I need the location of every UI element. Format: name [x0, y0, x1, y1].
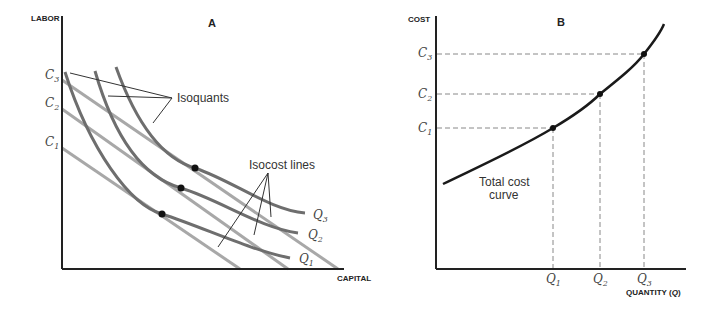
tangency-point-3 [192, 165, 199, 172]
c3-label: C3 [45, 68, 59, 84]
panel-b: COST B Total cost curve C3 C2 C1 Q1 Q2 Q… [408, 15, 686, 297]
quantity-q2-label: Q2 [593, 272, 608, 288]
quantity-axis-label: QUANTITY (Q) [626, 288, 681, 297]
panel-a: LABOR A Isoquants Isocost lines C3 C2 C1… [31, 14, 371, 283]
isoquant-q3 [116, 67, 305, 213]
cost-point-1 [550, 125, 556, 131]
isocost-line-c2 [62, 109, 288, 269]
isoquants-label: Isoquants [177, 91, 229, 105]
cost-c2-label: C2 [418, 87, 432, 103]
quantity-q1-label: Q1 [546, 272, 561, 288]
isoquants-pointer [108, 96, 172, 98]
c1-label: C1 [45, 135, 59, 151]
capital-axis-label: CAPITAL [337, 274, 371, 283]
cost-point-3 [641, 51, 647, 57]
cost-c3-label: C3 [418, 46, 432, 62]
figure: LABOR A Isoquants Isocost lines C3 C2 C1… [0, 0, 717, 310]
curve-label-line1: Total cost [479, 175, 530, 189]
tangency-point-1 [159, 211, 166, 218]
isoquants-pointer [153, 98, 172, 123]
tangency-point-2 [178, 185, 185, 192]
quantity-q3-label: Q3 [637, 272, 652, 288]
q3-label: Q3 [313, 208, 328, 224]
curve-label-line2: curve [489, 188, 519, 202]
isocost-pointer [268, 173, 271, 217]
isocost-label: Isocost lines [249, 158, 315, 172]
guide-lines [437, 54, 644, 269]
panel-b-title: B [557, 16, 565, 28]
cost-c1-label: C1 [418, 121, 432, 137]
cost-axis-label: COST [408, 15, 430, 24]
cost-point-2 [597, 91, 603, 97]
q2-label: Q2 [308, 228, 323, 244]
panel-a-title: A [208, 17, 216, 29]
labor-axis-label: LABOR [31, 14, 60, 23]
c2-label: C2 [45, 96, 59, 112]
diagram-canvas: LABOR A Isoquants Isocost lines C3 C2 C1… [0, 0, 717, 310]
q1-label: Q1 [299, 252, 314, 268]
